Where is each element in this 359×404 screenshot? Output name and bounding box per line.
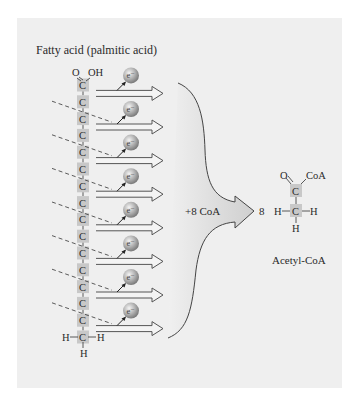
hollow-arrow — [96, 154, 163, 168]
acetyl-h-left: H — [274, 206, 282, 217]
carbon-label: C — [79, 315, 86, 326]
carbon-label: C — [79, 282, 86, 293]
electron-label: e⁻ — [127, 205, 135, 215]
carbon-label: C — [79, 97, 86, 108]
terminal-h-left: H — [62, 332, 70, 343]
terminal-h-right: H — [97, 332, 105, 343]
carbon-label: C — [79, 164, 86, 175]
electron-label: e⁻ — [127, 138, 135, 148]
coa-label: +8 CoA — [185, 205, 220, 217]
carbon-label: C — [79, 248, 86, 259]
hollow-arrow — [96, 221, 163, 235]
hollow-arrow — [96, 322, 163, 336]
carbon-label: C — [79, 332, 86, 343]
product-coefficient: 8 — [259, 205, 265, 217]
beta-oxidation-diagram: Fatty acid (palmitic acid) +8 CoA CCCCCC… — [0, 0, 359, 404]
carboxyl-oxygen: O — [72, 67, 80, 78]
acetyl-h-right: H — [310, 206, 318, 217]
electron-label: e⁻ — [127, 104, 135, 114]
electron-sphere: e⁻ — [117, 101, 139, 124]
electron-sphere: e⁻ — [117, 269, 139, 292]
acetyl-c2: C — [292, 206, 299, 217]
carbon-label: C — [79, 231, 86, 242]
carbon-label: C — [79, 214, 86, 225]
carbon-chain: CCCCCCCCCCCCCCCC — [52, 79, 112, 344]
electron-label: e⁻ — [127, 238, 135, 248]
hollow-arrow — [96, 120, 163, 134]
hollow-arrow — [96, 288, 163, 302]
electron-sphere: e⁻ — [117, 67, 139, 90]
electron-label: e⁻ — [127, 70, 135, 80]
acetyl-c1: C — [292, 186, 299, 197]
carbon-label: C — [79, 114, 86, 125]
acetyl-coa-group: CoA — [306, 170, 326, 181]
electron-sphere: e⁻ — [117, 135, 139, 158]
carbon-label: C — [79, 147, 86, 158]
hollow-arrow — [96, 86, 163, 100]
acetyl-coa-structure: C C O CoA H H H — [274, 170, 326, 234]
hollow-arrow — [96, 254, 163, 268]
electron-sphere: e⁻ — [117, 303, 139, 326]
electron-sphere: e⁻ — [117, 202, 139, 225]
carbon-label: C — [79, 181, 86, 192]
electron-label: e⁻ — [127, 171, 135, 181]
carbon-label: C — [79, 298, 86, 309]
product-name: Acetyl-CoA — [272, 254, 326, 266]
electron-label: e⁻ — [127, 306, 135, 316]
carboxyl-oh: OH — [88, 67, 104, 78]
diagram-title: Fatty acid (palmitic acid) — [36, 43, 157, 57]
carbon-label: C — [79, 265, 86, 276]
electron-sphere: e⁻ — [117, 235, 139, 258]
electron-sphere: e⁻ — [117, 168, 139, 191]
carbon-label: C — [79, 130, 86, 141]
terminal-h-bottom: H — [80, 348, 88, 359]
carbon-label: C — [79, 80, 86, 91]
carbon-label: C — [79, 198, 86, 209]
electron-label: e⁻ — [127, 272, 135, 282]
hollow-arrow — [96, 187, 163, 201]
oxidation-arrows: e⁻e⁻e⁻e⁻e⁻e⁻e⁻e⁻ — [96, 67, 163, 335]
acetyl-h-bottom: H — [292, 223, 300, 234]
